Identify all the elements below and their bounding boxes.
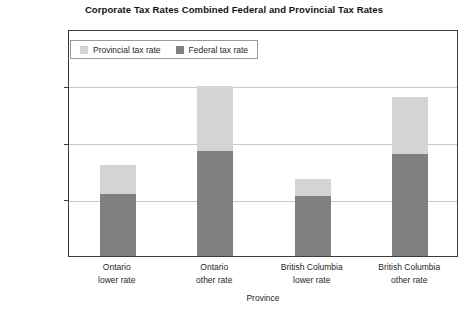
bar-stack[interactable] [100, 165, 136, 256]
bar-stack[interactable] [295, 179, 331, 256]
legend-item-federal: Federal tax rate [176, 45, 249, 55]
x-axis-tick-label-line: other rate [349, 274, 468, 287]
corporate-tax-rates-chart: Corporate Tax Rates Combined Federal and… [0, 0, 468, 315]
bar-segment-federal[interactable] [197, 151, 233, 256]
y-axis-tick-mark [64, 144, 68, 145]
x-axis-title: Province [68, 293, 458, 303]
plot-area [68, 30, 458, 257]
chart-legend: Provincial tax rate Federal tax rate [70, 40, 258, 59]
y-axis-tick-mark [64, 87, 68, 88]
legend-item-provincial: Provincial tax rate [80, 45, 161, 55]
legend-label-federal: Federal tax rate [189, 45, 249, 55]
bar-segment-federal[interactable] [295, 196, 331, 256]
bar-stack[interactable] [392, 97, 428, 256]
bar-segment-federal[interactable] [392, 154, 428, 256]
bar-segment-provincial[interactable] [197, 86, 233, 151]
provincial-swatch-icon [80, 46, 88, 54]
bar-segment-provincial[interactable] [392, 97, 428, 154]
bar-segment-provincial[interactable] [100, 165, 136, 193]
y-axis-tick-mark [64, 200, 68, 201]
gridline [69, 87, 457, 88]
chart-title: Corporate Tax Rates Combined Federal and… [0, 4, 468, 15]
x-axis-tick-label: British Columbiaother rate [349, 261, 468, 286]
bar-stack[interactable] [197, 86, 233, 256]
bar-segment-federal[interactable] [100, 194, 136, 256]
federal-swatch-icon [176, 46, 184, 54]
x-axis-tick-label-line: British Columbia [349, 261, 468, 274]
legend-label-provincial: Provincial tax rate [93, 45, 161, 55]
bar-segment-provincial[interactable] [295, 179, 331, 196]
